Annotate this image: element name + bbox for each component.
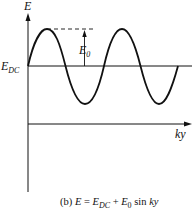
figure-caption: (b) E = EDC + E0 sin ky (60, 196, 158, 210)
y-axis-arrow-icon (26, 13, 31, 21)
x-axis-arrow-icon (184, 122, 192, 127)
x-axis-label: ky (175, 128, 186, 140)
amplitude-arrow-icon (82, 30, 86, 37)
y-axis-label: E (24, 0, 31, 12)
dc-level-label: EDC (1, 60, 19, 75)
sine-wave-diagram (0, 0, 193, 212)
amplitude-label: E0 (79, 44, 90, 59)
